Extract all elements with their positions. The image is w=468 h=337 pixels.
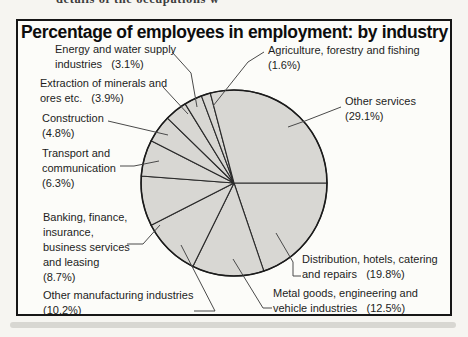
slice-label-6: Extraction of minerals and ores etc. (3.… (40, 76, 167, 106)
slice-label-2: Other manufacturing industries (10.2%) (43, 288, 193, 318)
slice-label-4: Transport and communication (6.3%) (42, 146, 116, 191)
slice-label-8: Agriculture, forestry and fishing (1.6%) (268, 43, 420, 73)
slice-label-9: Other services (29.1%) (345, 94, 416, 124)
slice-label-0: Distribution, hotels, catering and repai… (302, 252, 438, 282)
cropped-bottom-artifact (10, 322, 456, 328)
slice-label-7: Energy and water supply industries (3.1%… (55, 42, 176, 72)
slice-label-5: Construction (4.8%) (42, 111, 104, 141)
page: details of the occupations w Percentage … (0, 0, 468, 337)
slice-label-3: Banking, finance, insurance, business se… (43, 210, 130, 285)
slice-label-1: Metal goods, engineering and vehicle ind… (273, 286, 418, 316)
